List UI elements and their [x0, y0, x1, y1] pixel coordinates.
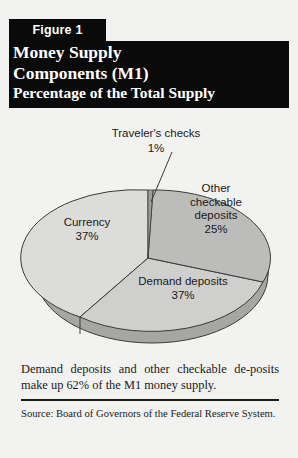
pie-label-other-checkable-deposits: Other checkable deposits 25% [176, 182, 256, 236]
caption-divider [21, 399, 279, 401]
figure-title-line-1: Money Supply [13, 42, 121, 63]
figure-title-line-2: Components (M1) [13, 63, 149, 84]
pie-label-demand-name: Demand deposits [138, 275, 228, 287]
figure-number-tab: Figure 1 [9, 19, 106, 42]
figure-number-label: Figure 1 [9, 19, 106, 42]
pie-label-other-line-2: checkable [190, 196, 242, 208]
pie-label-travelers-checks: Traveler's checks [86, 127, 226, 141]
pie-label-currency-name: Currency [64, 216, 111, 228]
pie-label-currency-pct: 37% [75, 230, 98, 242]
pie-label-currency: Currency 37% [42, 216, 132, 243]
figure-title-line-3: Percentage of the Total Supply [13, 84, 215, 102]
pie-label-other-line-1: Other [202, 182, 231, 194]
pie-label-demand-deposits: Demand deposits 37% [118, 275, 248, 302]
pie-label-other-line-3: deposits [195, 209, 238, 221]
pie-label-demand-pct: 37% [171, 289, 194, 301]
pie-chart: Traveler's checks 1% Other checkable dep… [0, 110, 298, 355]
pie-label-travelers-checks-pct: 1% [86, 142, 226, 156]
figure-caption: Demand deposits and other checkable de-p… [21, 362, 279, 393]
figure-source: Source: Board of Governors of the Federa… [21, 407, 283, 420]
figure-panel: Figure 1 Money Supply Components (M1) Pe… [0, 0, 298, 458]
pie-label-other-line-4: 25% [204, 223, 227, 235]
